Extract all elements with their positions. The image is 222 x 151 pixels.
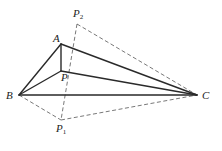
segment-B-P bbox=[19, 71, 61, 95]
label-P: P bbox=[60, 71, 68, 83]
segment-B-P1 bbox=[19, 95, 61, 120]
segment-P1-C bbox=[61, 95, 197, 120]
label-C: C bbox=[202, 89, 210, 101]
segment-P-C bbox=[61, 71, 197, 95]
dashed-lines bbox=[19, 24, 197, 120]
label-B: B bbox=[6, 89, 13, 101]
segment-A-C bbox=[61, 44, 197, 95]
label-P1: P1 bbox=[55, 122, 67, 136]
label-P2: P2 bbox=[72, 7, 84, 21]
geometry-diagram: A P B C P1 P2 bbox=[0, 0, 222, 151]
point-labels: A P B C P1 P2 bbox=[6, 7, 210, 136]
label-A: A bbox=[52, 32, 60, 44]
solid-lines bbox=[19, 44, 197, 95]
segment-A-B bbox=[19, 44, 61, 95]
